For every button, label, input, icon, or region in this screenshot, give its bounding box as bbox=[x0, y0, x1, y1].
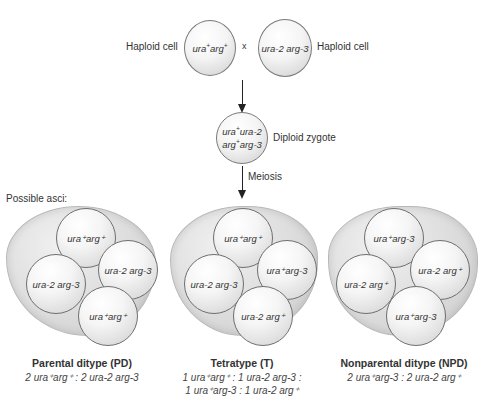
parent1-genotype: ura+arg+ bbox=[192, 42, 227, 55]
parent2-genotype: ura-2 arg-3 bbox=[262, 42, 309, 55]
diploid-zygote-cell: ura+ura-2 arg+arg-3 bbox=[216, 112, 268, 164]
spore: ura⁺arg-3 bbox=[386, 286, 446, 346]
zygote-genotype-line1: ura+ura-2 bbox=[222, 125, 262, 138]
haploid-cell-label-right: Haploid cell bbox=[317, 41, 369, 52]
spore: ura-2 arg-3 bbox=[26, 254, 86, 314]
ascus-title-npd: Nonparental ditype (NPD) bbox=[326, 357, 482, 369]
possible-asci-heading: Possible asci: bbox=[6, 193, 67, 204]
ascus-ratio-pd: 2 ura⁺arg⁺ : 2 ura-2 arg-3 bbox=[6, 371, 158, 384]
ascus-title-t: Tetratype (T) bbox=[166, 357, 318, 369]
haploid-cell-label-left: Haploid cell bbox=[126, 41, 178, 52]
meiosis-label: Meiosis bbox=[248, 171, 282, 182]
arrow-down-meiosis bbox=[242, 166, 243, 192]
arrow-down-to-zygote bbox=[242, 80, 243, 106]
cross-symbol: x bbox=[242, 41, 247, 51]
ascus-ratio-t-line1: 1 ura⁺arg⁺ : 1 ura-2 arg-3 : bbox=[166, 371, 318, 384]
haploid-cell-parent1: ura+arg+ bbox=[184, 20, 236, 76]
zygote-genotype-line2: arg+arg-3 bbox=[222, 138, 262, 151]
haploid-cell-parent2: ura-2 arg-3 bbox=[258, 19, 312, 77]
diploid-zygote-label: Diploid zygote bbox=[273, 132, 336, 143]
spore: ura-2 arg⁺ bbox=[233, 286, 293, 346]
ascus-title-pd: Parental ditype (PD) bbox=[6, 357, 158, 369]
ascus-ratio-t-line2: 1 ura⁺arg-3 : 1 ura-2 arg⁺ bbox=[166, 384, 318, 397]
arrow-head-icon bbox=[238, 190, 246, 199]
spore: ura⁺arg⁺ bbox=[78, 286, 138, 346]
ascus-ratio-npd: 2 ura⁺arg-3 : 2 ura-2 arg⁺ bbox=[326, 371, 482, 384]
